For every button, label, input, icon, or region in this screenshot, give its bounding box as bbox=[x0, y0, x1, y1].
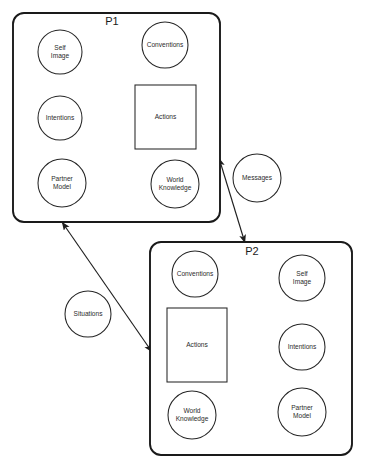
module-p2-self-image: SelfImage bbox=[279, 255, 325, 301]
module-p1-intentions-label: Intentions bbox=[46, 114, 75, 121]
module-p2-actions: Actions bbox=[167, 308, 227, 382]
channel-situations-label: Situations bbox=[74, 310, 104, 317]
module-p2-partner-model-label: PartnerModel bbox=[291, 404, 313, 419]
module-p2-conventions: Conventions bbox=[172, 251, 218, 297]
agent-p1-title: P1 bbox=[105, 15, 118, 27]
agents-layer: P1SelfImageConventionsIntentionsActionsP… bbox=[13, 13, 352, 455]
module-p1-actions: Actions bbox=[135, 85, 196, 149]
module-p2-world-knowledge: WorldKnowledge bbox=[168, 391, 216, 439]
module-p1-partner-model-label: PartnerModel bbox=[51, 175, 73, 190]
diagram-svg: P1SelfImageConventionsIntentionsActionsP… bbox=[0, 0, 365, 466]
agent-p1: P1SelfImageConventionsIntentionsActionsP… bbox=[13, 13, 220, 222]
module-p1-self-image: SelfImage bbox=[38, 30, 82, 74]
channel-situations: Situations bbox=[65, 291, 111, 337]
agent-p2: P2ConventionsSelfImageActionsIntentionsW… bbox=[150, 242, 352, 455]
module-p1-actions-label: Actions bbox=[155, 113, 177, 120]
diagram-canvas: P1SelfImageConventionsIntentionsActionsP… bbox=[0, 0, 365, 466]
module-p2-partner-model: PartnerModel bbox=[278, 388, 326, 436]
module-p2-intentions: Intentions bbox=[279, 324, 325, 370]
module-p1-conventions-label: Conventions bbox=[147, 41, 184, 48]
module-p1-world-knowledge: WorldKnowledge bbox=[151, 160, 199, 208]
module-p2-intentions-label: Intentions bbox=[288, 343, 317, 350]
channel-messages-label: Messages bbox=[242, 174, 273, 182]
module-p1-conventions: Conventions bbox=[142, 22, 188, 68]
agent-p2-title: P2 bbox=[245, 245, 258, 257]
module-p1-partner-model: PartnerModel bbox=[38, 159, 86, 207]
module-p1-intentions: Intentions bbox=[38, 96, 82, 140]
channel-messages: Messages bbox=[233, 154, 281, 202]
module-p2-conventions-label: Conventions bbox=[177, 270, 214, 277]
module-p2-actions-label: Actions bbox=[186, 341, 208, 348]
